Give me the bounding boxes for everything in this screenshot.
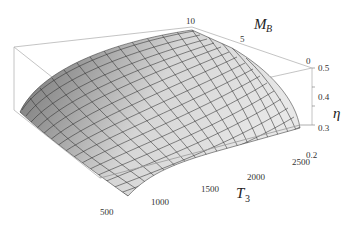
svg-text:3: 3 (245, 193, 250, 204)
y-tick-5: 5 (240, 34, 245, 44)
x-tick-500: 500 (100, 207, 114, 217)
x-tick-1500: 1500 (201, 184, 220, 194)
x-tick-2500: 2500 (292, 157, 311, 167)
svg-text:η: η (333, 105, 340, 121)
y-tick-0: 0 (306, 56, 311, 66)
x-tick-1000: 1000 (151, 197, 170, 207)
z-tick-0.5: 0.5 (318, 63, 330, 73)
z-tick-0.4: 0.4 (318, 92, 330, 102)
x-tick-2000: 2000 (247, 172, 266, 182)
svg-text:B: B (266, 23, 272, 34)
x-axis-label: T 3 (236, 185, 250, 204)
surface-plot: 0.5 0.4 0.3 0.2 10 5 0 500 1000 1500 200… (0, 0, 352, 226)
z-axis-ticks (312, 68, 315, 125)
y-tick-10: 10 (186, 16, 196, 26)
z-axis-label: η (333, 105, 340, 121)
z-tick-0.3: 0.3 (318, 123, 330, 133)
y-axis-label: M B (253, 16, 272, 34)
